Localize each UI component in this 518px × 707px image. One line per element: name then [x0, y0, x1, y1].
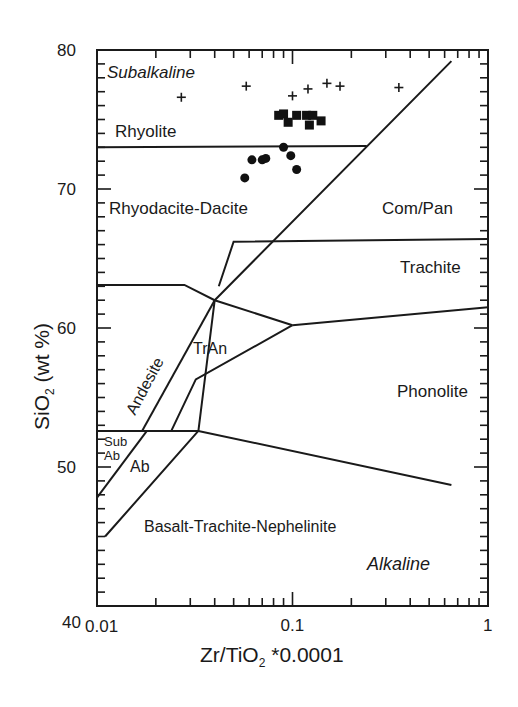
annotation-alkaline: Alkaline — [366, 554, 430, 574]
y-tick-label: 60 — [57, 319, 76, 338]
field-label-ab: Ab — [130, 458, 150, 475]
square-marker — [317, 116, 326, 125]
cross-marker — [336, 82, 345, 91]
field-label-sub: Sub — [104, 434, 127, 449]
tas-classification-chart: 0.010.114050607080 Subalkaline Rhyolite … — [0, 0, 518, 707]
square-marker — [305, 121, 314, 130]
circle-marker — [261, 154, 270, 163]
y-tick-label: 80 — [57, 41, 76, 60]
y-tick-label: 50 — [57, 458, 76, 477]
field-label-andesite: Andesite — [123, 354, 167, 417]
boundary-trachite-phonolite — [293, 307, 489, 325]
field-label-basalt-trachite-nephelinite: Basalt-Trachite-Nephelinite — [144, 518, 336, 535]
cross-marker — [303, 84, 312, 93]
square-marker — [279, 109, 288, 118]
field-label-com-pan: Com/Pan — [382, 199, 453, 218]
field-label-trachite: Trachite — [400, 258, 461, 277]
field-label-ab-small: Ab — [104, 448, 120, 463]
circle-marker — [240, 173, 249, 182]
field-label-rhyolite: Rhyolite — [115, 122, 176, 141]
annotation-subalkaline: Subalkaline — [107, 63, 195, 82]
boundary-tran-lower — [171, 325, 292, 431]
cross-marker — [394, 83, 403, 92]
square-marker — [308, 111, 317, 120]
x-tick-label: 1 — [483, 616, 492, 635]
field-label-tran: TrAn — [193, 340, 227, 357]
cross-marker — [242, 82, 251, 91]
square-marker — [292, 111, 301, 120]
square-marker — [284, 118, 293, 127]
boundary-basalt-top — [97, 431, 451, 485]
data-points — [177, 79, 404, 183]
circle-marker — [247, 155, 256, 164]
field-label-rhyodacite-dacite: Rhyodacite-Dacite — [109, 199, 248, 218]
circle-marker — [279, 143, 288, 152]
y-tick-label: 40 — [62, 613, 81, 632]
circle-marker — [292, 165, 301, 174]
boundary-rhyolite-dacite — [97, 146, 367, 147]
x-tick-label: 0.1 — [281, 616, 305, 635]
x-axis-label: Zr/TiO2 *0.0001 — [200, 643, 344, 670]
boundary-andesite-top — [97, 285, 293, 325]
circle-marker — [286, 151, 295, 160]
x-tick-label: 0.01 — [85, 617, 118, 636]
cross-marker — [288, 91, 297, 100]
field-label-phonolite: Phonolite — [397, 382, 468, 401]
y-axis-label: SiO2 (wt %) — [30, 323, 57, 430]
cross-marker — [177, 93, 186, 102]
cross-marker — [322, 79, 331, 88]
y-tick-label: 70 — [57, 180, 76, 199]
